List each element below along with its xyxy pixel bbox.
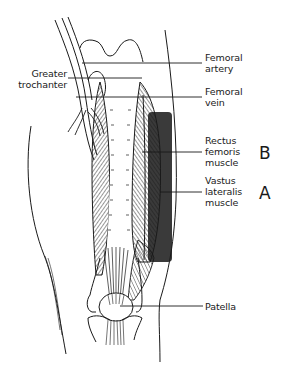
label-vastus-lateralis-line3: muscle <box>205 197 242 208</box>
label-vastus-lateralis-line2: lateralis <box>205 186 242 197</box>
skin-fold-lines <box>45 256 62 335</box>
label-femoral-vein: Femoral vein <box>205 86 243 108</box>
label-rectus-femoris: Rectus femoris muscle <box>205 135 240 168</box>
label-rectus-femoris-line1: Rectus <box>205 135 240 146</box>
label-vastus-lateralis-line1: Vastus <box>205 175 242 186</box>
label-femoral-artery: Femoral artery <box>205 52 243 74</box>
marker-b: B <box>259 145 271 162</box>
label-femoral-vein-line1: Femoral <box>205 86 243 97</box>
label-femoral-artery-line1: Femoral <box>205 52 243 63</box>
femur-shaft <box>106 80 135 265</box>
label-vastus-lateralis: Vastus lateralis muscle <box>205 175 242 208</box>
label-rectus-femoris-line3: muscle <box>205 157 240 168</box>
patellar-tendon <box>106 320 124 345</box>
rectus-femoris-muscle <box>132 82 161 262</box>
medial-muscle <box>92 82 110 275</box>
label-greater-trochanter-line1: Greater <box>8 68 67 79</box>
femoral-vessels <box>55 20 94 160</box>
pelvis-outline <box>80 40 143 62</box>
label-femoral-vein-line2: vein <box>205 97 243 108</box>
label-rectus-femoris-line2: femoris <box>205 146 240 157</box>
thigh-outline-medial <box>28 126 66 354</box>
label-patella-line1: Patella <box>205 301 236 312</box>
label-greater-trochanter: Greater trochanter <box>8 68 67 90</box>
label-femoral-artery-line2: artery <box>205 63 243 74</box>
label-patella: Patella <box>205 301 236 312</box>
label-greater-trochanter-line2: trochanter <box>8 79 67 90</box>
marker-a: A <box>259 185 271 202</box>
femoral-vessels-2 <box>62 18 97 155</box>
femoral-vessels-3 <box>68 17 92 100</box>
